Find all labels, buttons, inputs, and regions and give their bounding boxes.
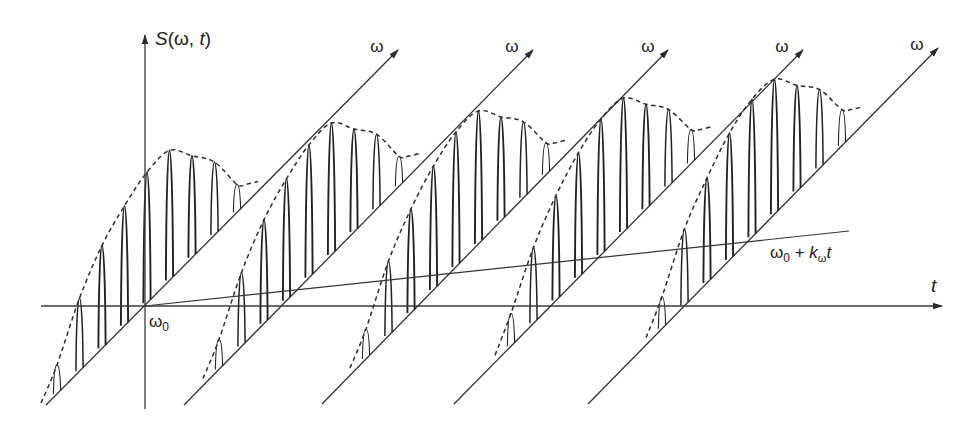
spectral-peak	[350, 129, 357, 232]
spectral-slice-2	[184, 50, 533, 405]
spectral-peak	[215, 339, 222, 369]
spectral-peak	[658, 297, 665, 329]
spectral-peak	[305, 145, 312, 278]
omega-axis-label-3: ω	[641, 37, 654, 56]
spectral-peak	[703, 178, 710, 283]
spectral-slice-1	[41, 50, 398, 405]
vertical-axis-label: S(ω, t)	[155, 28, 211, 49]
spectral-peak	[552, 196, 559, 301]
spectral-peak	[283, 179, 290, 301]
spectral-peak	[597, 119, 604, 255]
envelope-dashed-1	[41, 150, 258, 403]
spectral-peak	[748, 99, 755, 237]
spectral-peak	[681, 229, 688, 306]
spectral-peak	[121, 206, 128, 326]
omega-axis-label-1: ω	[370, 37, 383, 56]
envelope-dashed-3	[350, 110, 567, 368]
waterfall-diagram: S(ω, t) t ω0 ω0 + kωt ωωωωω	[0, 0, 971, 426]
spectral-peak	[726, 133, 733, 260]
spectral-slices	[41, 48, 938, 405]
spectral-peak	[687, 130, 694, 164]
spectral-slice-5	[588, 48, 938, 404]
spectral-peak	[771, 79, 778, 214]
spectral-peak	[665, 109, 672, 186]
omega-axis-5	[588, 48, 938, 404]
spectral-peak	[373, 134, 380, 209]
spectral-peak	[53, 365, 60, 394]
spectral-peak	[475, 111, 482, 244]
spectral-peak	[542, 143, 549, 175]
spectral-peak	[793, 85, 800, 191]
spectral-peak	[452, 132, 459, 267]
spectral-peak	[260, 220, 267, 324]
spectral-peak	[395, 156, 402, 186]
spectral-peak	[211, 162, 218, 235]
envelope-dashed-2	[203, 122, 420, 378]
spectral-peak	[507, 313, 514, 346]
time-axis-label: t	[931, 275, 937, 296]
spectral-peak	[98, 246, 105, 349]
sweep-line-omega0-plus-kt	[145, 231, 849, 306]
spectral-peak	[362, 329, 369, 359]
spectral-peak	[166, 150, 173, 280]
spectral-peak	[816, 90, 823, 169]
spectral-peak	[233, 184, 240, 212]
spectral-peak	[430, 166, 437, 290]
origin-label-omega0: ω0	[149, 312, 169, 334]
omega-axis-label-4: ω	[775, 37, 788, 56]
spectral-peak	[328, 123, 335, 255]
spectral-peak	[188, 156, 195, 258]
spectral-peak	[76, 298, 83, 371]
spectral-peak	[497, 117, 504, 221]
envelope-dashed-4	[495, 98, 712, 356]
omega-axis-label-5: ω	[910, 35, 923, 54]
spectral-peak	[385, 261, 392, 336]
sweep-line-label: ω0 + kωt	[770, 243, 832, 265]
spectral-peak	[520, 122, 527, 198]
frequency-axis-labels: ωωωωω	[370, 35, 923, 56]
spectral-peak	[642, 104, 649, 209]
spectral-peak	[407, 209, 414, 313]
spectral-peak	[838, 110, 845, 146]
spectral-peak	[238, 273, 245, 347]
omega-axis-label-2: ω	[505, 37, 518, 56]
spectral-peak	[620, 98, 627, 232]
spectral-peak	[530, 247, 537, 323]
